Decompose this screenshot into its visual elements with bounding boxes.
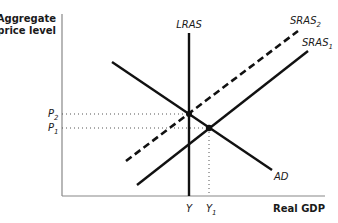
sras1-label: SRAS1 xyxy=(302,37,333,51)
sras2-curve xyxy=(126,31,298,161)
p2-label: P2 xyxy=(48,108,59,122)
y-label: Y xyxy=(186,203,193,214)
equilibrium-point-1 xyxy=(206,125,212,131)
p1-label: P1 xyxy=(48,122,59,136)
sras1-curve xyxy=(137,51,308,185)
equilibrium-point-2 xyxy=(186,111,192,117)
y-axis-title-line1: Aggregate xyxy=(0,13,56,24)
sras2-label: SRAS2 xyxy=(290,15,321,29)
ad-label: AD xyxy=(273,171,289,182)
x-axis-title: Real GDP xyxy=(273,203,325,214)
y1-label: Y1 xyxy=(206,203,217,217)
lras-label: LRAS xyxy=(176,19,202,30)
y-axis-title-line2: price level xyxy=(0,25,56,36)
ad-as-diagram: Aggregate price level Real GDP LRAS SRAS… xyxy=(0,0,338,223)
